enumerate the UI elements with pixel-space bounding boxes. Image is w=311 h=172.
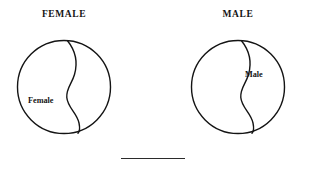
panel-title-male: MALE (191, 9, 285, 19)
figure-container: FEMALE Female MALE Male (0, 0, 311, 172)
horizontal-rule (121, 158, 185, 159)
region-label-male: Male (245, 70, 263, 79)
circle-outline-male (192, 41, 285, 134)
diagram-circle-male: Male (189, 28, 289, 146)
panel-title-female: FEMALE (17, 9, 111, 19)
diagram-circle-female: Female (15, 28, 115, 146)
region-label-female: Female (28, 96, 54, 105)
circle-outline-female (18, 41, 111, 134)
